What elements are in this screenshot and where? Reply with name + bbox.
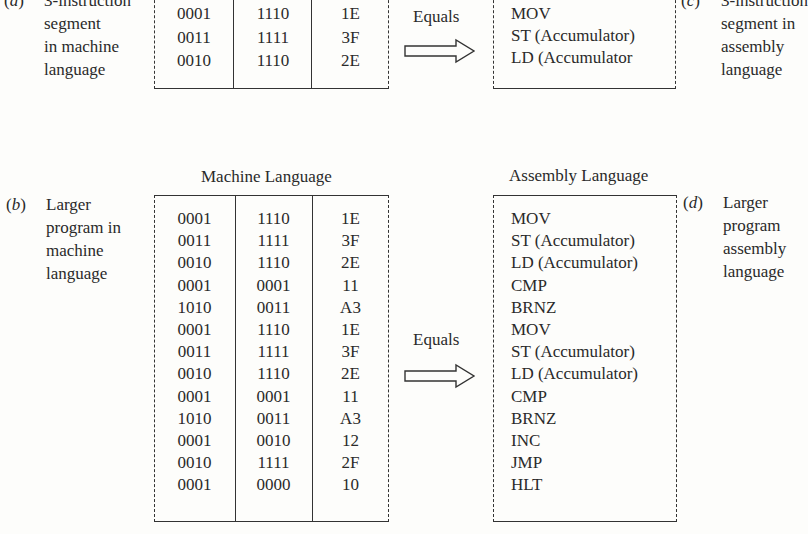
opcode-cell: 0010: [154, 252, 235, 274]
hex-cell: 2E: [312, 50, 389, 72]
opcode-cell: 0001: [154, 319, 235, 341]
hex-cell: 2F: [312, 452, 389, 474]
hex-cell: 11: [312, 275, 389, 297]
operand-cell: 0011: [235, 297, 312, 319]
table-row: 10100011A3: [154, 297, 389, 319]
right-arrow-icon: [404, 364, 476, 388]
operand-cell: 0001: [235, 275, 312, 297]
operand-cell: 1110: [235, 208, 312, 230]
panel-c-tag: (c): [681, 0, 721, 12]
opcode-cell: 0001: [154, 474, 235, 496]
panel-d-label: (d)Larger program assembly language: [683, 191, 786, 283]
asm-line: MOV: [511, 3, 635, 25]
panel-d-tag: (d): [683, 191, 723, 214]
asm-line: INC: [511, 430, 638, 452]
asm-line: CMP: [511, 386, 638, 408]
opcode-cell: 0001: [154, 386, 235, 408]
asm-line: LD (Accumulator): [511, 252, 638, 274]
hex-cell: A3: [312, 408, 389, 430]
machine-code-box-small: 000111101E001111113F001011102E: [154, 0, 389, 89]
table-row: 0001001012: [154, 430, 389, 452]
opcode-cell: 0011: [154, 230, 235, 252]
operand-cell: 1111: [234, 27, 312, 49]
assembly-language-title: Assembly Language: [509, 166, 648, 186]
hex-cell: A3: [312, 297, 389, 319]
hex-cell: 3F: [312, 341, 389, 363]
asm-line: ST (Accumulator): [511, 230, 638, 252]
opcode-cell: 0011: [154, 341, 235, 363]
opcode-cell: 0001: [154, 430, 235, 452]
hex-cell: 1E: [312, 319, 389, 341]
hex-cell: 12: [312, 430, 389, 452]
operand-cell: 1111: [235, 341, 312, 363]
table-row: 0001000111: [154, 386, 389, 408]
opcode-cell: 0010: [154, 363, 235, 385]
opcode-cell: 1010: [154, 408, 235, 430]
table-row: 10100011A3: [154, 408, 389, 430]
asm-line: LD (Accumulator): [511, 363, 638, 385]
machine-language-title: Machine Language: [201, 167, 332, 187]
assembly-code-box-large: MOVST (Accumulator)LD (Accumulator)CMPBR…: [493, 195, 677, 522]
table-row: 001111113F: [154, 230, 389, 252]
table-row: 0001000111: [154, 275, 389, 297]
opcode-cell: 0011: [154, 27, 234, 49]
asm-line: CMP: [511, 275, 638, 297]
asm-line: BRNZ: [511, 408, 638, 430]
asm-line: BRNZ: [511, 297, 638, 319]
table-row: 001111113F: [154, 27, 389, 49]
operand-cell: 0010: [235, 430, 312, 452]
table-row: 0001000010: [154, 474, 389, 496]
table-row: 000111101E: [154, 3, 389, 25]
operand-cell: 1110: [235, 252, 312, 274]
table-row: 001011102E: [154, 252, 389, 274]
operand-cell: 1110: [234, 50, 312, 72]
asm-line: ST (Accumulator): [511, 25, 635, 47]
table-row: 001111113F: [154, 341, 389, 363]
hex-cell: 1E: [312, 3, 389, 25]
operand-cell: 0001: [235, 386, 312, 408]
operand-cell: 0000: [235, 474, 312, 496]
asm-line: MOV: [511, 319, 638, 341]
operand-cell: 1110: [235, 363, 312, 385]
opcode-cell: 0001: [154, 275, 235, 297]
hex-cell: 3F: [312, 27, 389, 49]
operand-cell: 1111: [235, 452, 312, 474]
opcode-cell: 0010: [154, 452, 235, 474]
asm-line: LD (Accumulator: [511, 47, 635, 69]
panel-c-label: (c)3-instruction segment in assembly lan…: [681, 0, 808, 81]
panel-b-tag: (b): [6, 193, 46, 216]
panel-a-label: (a)3-instruction segment in machine lang…: [4, 0, 131, 81]
asm-line: MOV: [511, 208, 638, 230]
operand-cell: 1110: [234, 3, 312, 25]
opcode-cell: 0010: [154, 50, 234, 72]
operand-cell: 1110: [235, 319, 312, 341]
hex-cell: 1E: [312, 208, 389, 230]
hex-cell: 3F: [312, 230, 389, 252]
hex-cell: 2E: [312, 252, 389, 274]
table-row: 001011112F: [154, 452, 389, 474]
panel-b-label: (b)Larger program in machine language: [6, 193, 121, 285]
hex-cell: 10: [312, 474, 389, 496]
table-row: 000111101E: [154, 208, 389, 230]
operand-cell: 1111: [235, 230, 312, 252]
asm-line: ST (Accumulator): [511, 341, 638, 363]
equals-label-top: Equals: [413, 7, 459, 27]
asm-line: JMP: [511, 452, 638, 474]
hex-cell: 11: [312, 386, 389, 408]
opcode-cell: 1010: [154, 297, 235, 319]
panel-a-tag: (a): [4, 0, 44, 12]
opcode-cell: 0001: [154, 3, 234, 25]
table-row: 001011102E: [154, 50, 389, 72]
assembly-code-box-small: MOV ST (Accumulator) LD (Accumulator: [493, 0, 676, 89]
hex-cell: 2E: [312, 363, 389, 385]
right-arrow-icon: [404, 39, 476, 63]
table-row: 001011102E: [154, 363, 389, 385]
table-row: 000111101E: [154, 319, 389, 341]
equals-label-bottom: Equals: [413, 330, 459, 350]
machine-code-box-large: 000111101E001111113F001011102E0001000111…: [154, 195, 389, 522]
operand-cell: 0011: [235, 408, 312, 430]
asm-line: HLT: [511, 474, 638, 496]
opcode-cell: 0001: [154, 208, 235, 230]
